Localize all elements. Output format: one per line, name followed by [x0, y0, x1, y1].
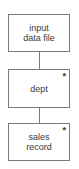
- node-input-data-file: input data file: [8, 14, 70, 52]
- iteration-marker-icon: *: [62, 72, 66, 81]
- node-sales-record: sales record *: [8, 123, 70, 161]
- connector-dept-to-sales: [39, 108, 40, 123]
- node-label: input data file: [23, 23, 55, 43]
- node-label: sales record: [26, 132, 52, 152]
- node-dept: dept *: [8, 69, 70, 108]
- connector-input-to-dept: [39, 52, 40, 69]
- iteration-marker-icon: *: [62, 126, 66, 135]
- node-label: dept: [30, 84, 48, 94]
